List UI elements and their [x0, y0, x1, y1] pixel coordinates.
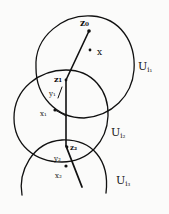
label-x: x: [97, 47, 102, 57]
point-x1: [53, 108, 56, 111]
point-z2: [66, 146, 69, 149]
segment-z2-tail: [66, 146, 82, 187]
segment-z0-z1: [66, 31, 89, 80]
point-x2: [64, 164, 67, 167]
point-z1: [65, 79, 68, 82]
point-x: [89, 49, 92, 52]
label-z1: z₁: [54, 74, 62, 84]
label-z0: z₀: [80, 18, 89, 28]
y1-pointer: [58, 87, 62, 98]
circle-u-i1: [36, 16, 134, 118]
diagram-canvas: z₀ x z₁ y₁ x₁ z₂ y₂ x₂ Ui₁ Ui₂ Ui₃: [0, 0, 169, 214]
circle-u-i3: [21, 140, 106, 195]
label-y2: y₂: [53, 155, 61, 163]
cover-diagram: z₀ x z₁ y₁ x₁ z₂ y₂ x₂ Ui₁ Ui₂ Ui₃: [0, 0, 169, 214]
label-u-i1: Ui₁: [138, 60, 153, 74]
label-x1: x₁: [40, 110, 47, 118]
x1-pointer: [55, 110, 66, 116]
label-u-i2: Ui₂: [111, 126, 126, 140]
label-y1: y₁: [48, 90, 56, 98]
point-z0: [87, 29, 91, 33]
label-u-i3: Ui₃: [116, 174, 131, 188]
label-z2: z₂: [70, 143, 77, 152]
label-x2: x₂: [55, 172, 62, 180]
